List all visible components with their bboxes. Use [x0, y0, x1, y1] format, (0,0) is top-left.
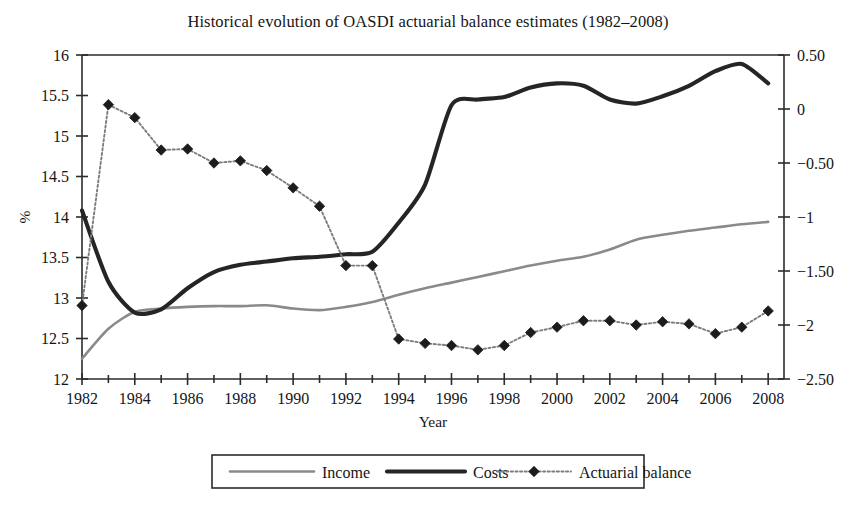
x-tick-label: 2002 [594, 390, 626, 407]
data-point-marker [420, 338, 430, 348]
data-point-marker [446, 340, 456, 350]
x-tick-label: 1996 [435, 390, 467, 407]
y-tick-label-left: 13 [53, 290, 69, 307]
data-point-marker [552, 322, 562, 332]
y-tick-label-right: −1.50 [797, 263, 834, 280]
y-tick-label-right: −2 [797, 317, 814, 334]
data-point-marker [657, 317, 667, 327]
y-tick-label-right: −1 [797, 209, 814, 226]
y-tick-label-left: 15.5 [41, 87, 69, 104]
data-point-marker [525, 327, 535, 337]
data-point-marker [605, 315, 615, 325]
y-tick-label-left: 12.5 [41, 330, 69, 347]
x-axis-title: Year [419, 413, 448, 430]
data-point-marker [631, 320, 641, 330]
x-tick-label: 1986 [172, 390, 204, 407]
data-point-marker [209, 158, 219, 168]
data-point-marker [499, 340, 509, 350]
x-tick-label: 2000 [541, 390, 573, 407]
series-line-costs [82, 64, 768, 314]
data-point-marker [288, 183, 298, 193]
legend-label-actuarial-balance: Actuarial balance [579, 464, 691, 481]
data-point-marker [473, 345, 483, 355]
y-tick-label-right: −0.50 [797, 155, 834, 172]
chart-plot-svg: 1982198419861988199019921994199619982000… [0, 0, 856, 511]
y-tick-label-right: 0.50 [797, 47, 825, 64]
chart-figure: Historical evolution of OASDI actuarial … [0, 0, 856, 511]
data-point-marker [182, 144, 192, 154]
y-tick-label-left: 14 [53, 209, 69, 226]
y-tick-labels-right: −2.50−2−1.50−1−0.5000.50 [797, 47, 834, 388]
x-tick-label: 1998 [488, 390, 520, 407]
x-tick-label: 1990 [277, 390, 309, 407]
chart-legend: IncomeCostsActuarial balance [212, 455, 691, 488]
data-point-marker [684, 319, 694, 329]
data-point-marker [737, 322, 747, 332]
x-tick-label: 2004 [647, 390, 679, 407]
data-point-marker [393, 334, 403, 344]
data-series-group [77, 64, 774, 359]
y-axis-title: % [16, 210, 33, 223]
y-tick-label-right: −2.50 [797, 371, 834, 388]
y-tick-label-left: 15 [53, 128, 69, 145]
legend-label-income: Income [322, 464, 370, 481]
x-tick-label: 1988 [224, 390, 256, 407]
data-point-marker [578, 315, 588, 325]
data-point-marker [103, 99, 113, 109]
series-line-actuarial-balance [82, 105, 768, 350]
y-tick-label-right: 0 [797, 101, 805, 118]
axes-group [76, 55, 790, 385]
data-point-marker [763, 306, 773, 316]
x-tick-label: 2008 [752, 390, 784, 407]
x-tick-label: 2006 [699, 390, 731, 407]
data-point-marker [367, 260, 377, 270]
data-point-marker [77, 300, 87, 310]
x-tick-labels: 1982198419861988199019921994199619982000… [66, 390, 784, 407]
data-point-marker [710, 328, 720, 338]
y-tick-labels-left: 1212.51313.51414.51515.516 [41, 47, 69, 388]
x-tick-label: 1994 [383, 390, 415, 407]
x-tick-label: 1992 [330, 390, 362, 407]
x-tick-label: 1984 [119, 390, 151, 407]
x-tick-label: 1982 [66, 390, 98, 407]
y-tick-label-left: 14.5 [41, 168, 69, 185]
data-point-marker [341, 260, 351, 270]
y-tick-label-left: 12 [53, 371, 69, 388]
data-point-marker [262, 165, 272, 175]
y-tick-label-left: 13.5 [41, 249, 69, 266]
data-point-marker [235, 156, 245, 166]
y-tick-label-left: 16 [53, 47, 69, 64]
